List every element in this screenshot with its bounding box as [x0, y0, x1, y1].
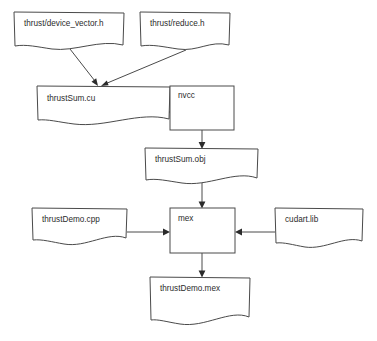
document-shape: [37, 86, 170, 125]
edge-device_vector_h-to-thrustsum_cu: [70, 49, 98, 86]
edge-nvcc-to-thrustsum_obj: [199, 130, 206, 149]
edge-line: [104, 50, 186, 84]
node-reduce_h[interactable]: thrust/reduce.h: [140, 12, 230, 49]
arrowhead-icon: [199, 202, 206, 209]
node-thrustdemo_cpp[interactable]: thrustDemo.cpp: [32, 208, 127, 245]
node-nvcc[interactable]: nvcc: [170, 86, 234, 130]
node-mex[interactable]: mex: [170, 208, 235, 253]
document-shape: [32, 208, 127, 245]
node-label: thrustDemo.cpp: [42, 215, 100, 224]
build-flow-diagram: thrust/device_vector.h thrust/reduce.h t…: [0, 0, 377, 341]
node-label: thrustDemo.mex: [160, 284, 220, 293]
arrowhead-icon: [235, 229, 242, 236]
document-shape: [275, 208, 363, 247]
node-device_vector_h[interactable]: thrust/device_vector.h: [14, 12, 124, 49]
arrowhead-icon: [199, 142, 206, 149]
node-layer: thrust/device_vector.h thrust/reduce.h t…: [14, 12, 363, 325]
node-thrustsum_cu[interactable]: thrustSum.cu: [37, 86, 170, 125]
edge-reduce_h-to-thrustsum_cu: [101, 50, 186, 86]
arrowhead-icon: [92, 78, 99, 86]
document-shape: [14, 12, 124, 49]
node-label: thrust/reduce.h: [150, 19, 205, 28]
arrowhead-icon: [101, 81, 109, 86]
node-label: cudart.lib: [285, 215, 319, 224]
node-label: thrustSum.obj: [155, 155, 206, 164]
edge-thrustsum_obj-to-mex: [199, 182, 206, 209]
node-thrustdemo_mex[interactable]: thrustDemo.mex: [150, 277, 250, 325]
edge-thrustdemo_cpp-to-mex: [127, 229, 170, 236]
document-shape: [140, 12, 230, 49]
node-thrustsum_obj[interactable]: thrustSum.obj: [145, 148, 258, 184]
node-cudart_lib[interactable]: cudart.lib: [275, 208, 363, 247]
edge-cudart_lib-to-mex: [235, 229, 275, 236]
document-shape: [145, 148, 258, 184]
arrowhead-icon: [199, 271, 206, 278]
node-label: thrustSum.cu: [47, 94, 96, 103]
node-label: nvcc: [178, 91, 195, 100]
edge-mex-to-thrustdemo_mex: [199, 253, 206, 278]
node-label: thrust/device_vector.h: [24, 19, 104, 28]
node-label: mex: [178, 214, 193, 223]
edge-line: [70, 49, 97, 83]
diagram-canvas: thrust/device_vector.h thrust/reduce.h t…: [0, 0, 377, 341]
arrowhead-icon: [163, 229, 170, 236]
